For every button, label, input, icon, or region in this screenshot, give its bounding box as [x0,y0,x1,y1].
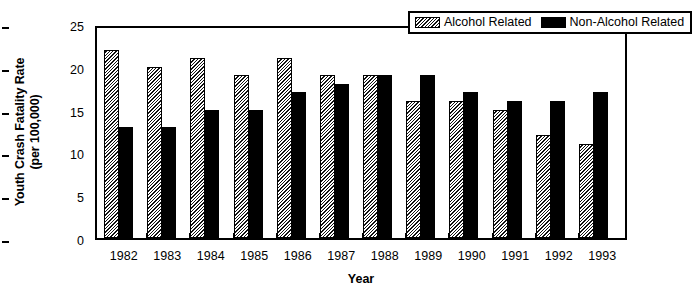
bar-group [234,28,277,238]
y-axis-tick-label: 5 [2,190,84,206]
bar-group [104,28,147,238]
bar-alcohol-related [449,101,464,238]
bar-alcohol-related [536,135,551,238]
x-axis-tick-labels: 1982198319841985198619871988198919901991… [95,248,627,264]
bar-group [493,28,536,238]
y-axis-tick-label: 15 [2,105,84,121]
bar-group [363,28,406,238]
y-axis-tick-label: 0 [2,233,84,249]
bar-non-alcohol-related [420,75,435,238]
x-axis-tick-label: 1992 [537,248,581,264]
legend-entry-non-alcohol: Non-Alcohol Related [541,15,685,29]
bar-alcohol-related [147,67,162,238]
x-axis-tick-label: 1991 [494,248,538,264]
bar-group [147,28,190,238]
bar-alcohol-related [493,110,508,238]
x-axis-tick-label: 1984 [189,248,233,264]
bar-group [449,28,492,238]
x-axis-title: Year [95,272,627,287]
bar-alcohol-related [320,75,335,238]
bar-non-alcohol-related [507,101,522,238]
bar-alcohol-related [579,144,594,238]
bar-group [320,28,363,238]
legend-swatch-non-alcohol-icon [541,17,566,28]
bar-groups [97,28,625,238]
bar-group [536,28,579,238]
bar-alcohol-related [234,75,249,238]
legend-swatch-alcohol-icon [415,17,440,28]
bar-non-alcohol-related [204,110,219,238]
bar-group [190,28,233,238]
bar-non-alcohol-related [463,92,478,238]
y-axis-title-line2: (per 100,000) [28,58,43,207]
y-axis-tick-label: 20 [2,62,84,78]
x-axis-tick-label: 1986 [276,248,320,264]
x-axis-tick-label: 1982 [102,248,146,264]
bar-non-alcohol-related [593,92,608,238]
x-axis-tick-label: 1993 [581,248,625,264]
bar-non-alcohol-related [118,127,133,238]
x-axis-tick-label: 1988 [363,248,407,264]
y-axis-title: Youth Crash Fatality Rate (per 100,000) [8,14,48,250]
y-axis-title-line1: Youth Crash Fatality Rate [13,58,27,207]
bar-non-alcohol-related [161,127,176,238]
bar-alcohol-related [277,58,292,238]
bar-group [579,28,622,238]
bar-group [277,28,320,238]
x-axis-tick-label: 1989 [407,248,451,264]
x-axis-tick-label: 1990 [450,248,494,264]
y-axis-tick-label: 25 [2,19,84,35]
bar-non-alcohol-related [291,92,306,238]
chart-legend: Alcohol Related Non-Alcohol Related [408,11,692,34]
bar-non-alcohol-related [248,110,263,238]
y-axis-tick-label: 10 [2,147,84,163]
bar-alcohol-related [406,101,421,238]
bar-non-alcohol-related [550,101,565,238]
bar-non-alcohol-related [377,75,392,238]
bar-non-alcohol-related [334,84,349,238]
bar-group [406,28,449,238]
bar-alcohol-related [190,58,205,238]
plot-area: 0510152025 [95,26,627,240]
legend-label-alcohol: Alcohol Related [444,15,532,29]
legend-label-non-alcohol: Non-Alcohol Related [570,15,685,29]
bar-alcohol-related [363,75,378,238]
x-axis-tick-label: 1985 [233,248,277,264]
x-axis-tick-label: 1983 [146,248,190,264]
x-axis-tick-label: 1987 [320,248,364,264]
bar-alcohol-related [104,50,119,238]
legend-entry-alcohol: Alcohol Related [415,15,532,29]
